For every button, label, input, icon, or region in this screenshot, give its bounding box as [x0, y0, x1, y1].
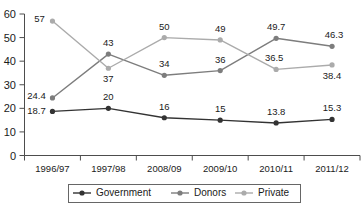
x-axis-ticks: [25, 156, 361, 161]
data-label-government: 15.3: [323, 102, 342, 113]
data-point-private: [218, 37, 223, 42]
series-layer: [50, 18, 335, 125]
data-point-government: [106, 106, 111, 111]
data-point-government: [162, 115, 167, 120]
data-label-donors: 43: [103, 37, 114, 48]
data-point-donors: [50, 95, 55, 100]
series-line-government: [52, 108, 332, 123]
data-label-private: 36.5: [265, 52, 284, 63]
data-point-private: [106, 66, 111, 71]
legend-swatch-marker: [177, 190, 182, 195]
data-point-donors: [329, 44, 334, 49]
y-tick-label: 10: [4, 126, 16, 138]
y-tick-label: 20: [4, 102, 16, 114]
data-label-donors: 34: [159, 58, 170, 69]
x-category-label: 2011/12: [315, 163, 349, 174]
line-chart: 0102030405060 1996/971997/982008/092009/…: [0, 0, 364, 206]
chart-legend[interactable]: GovernmentDonorsPrivate: [69, 185, 301, 203]
y-tick-label: 0: [10, 150, 16, 162]
legend-label: Donors: [194, 187, 226, 198]
series-line-private: [52, 21, 332, 69]
data-point-private: [329, 62, 334, 67]
data-point-private: [50, 18, 55, 23]
x-category-label: 1997/98: [91, 163, 125, 174]
data-point-donors: [162, 73, 167, 78]
data-label-government: 13.8: [267, 106, 286, 117]
y-tick-label: 60: [4, 8, 16, 20]
data-point-private: [274, 67, 279, 72]
data-label-private: 37: [103, 73, 114, 84]
data-point-donors: [218, 68, 223, 73]
legend-label: Government: [96, 187, 151, 198]
data-label-private: 38.4: [323, 70, 342, 81]
x-category-label: 1996/97: [35, 163, 69, 174]
data-point-government: [274, 120, 279, 125]
data-label-layer: 18.720161513.815.324.443343649.746.35737…: [27, 13, 343, 117]
x-category-label: 2010/11: [259, 163, 293, 174]
data-label-private: 50: [159, 21, 170, 32]
data-point-donors: [106, 51, 111, 56]
data-label-government: 18.7: [27, 105, 46, 116]
data-point-government: [329, 117, 334, 122]
legend-swatch-marker: [79, 190, 84, 195]
data-label-private: 49: [215, 23, 226, 34]
data-label-government: 15: [215, 103, 226, 114]
data-label-private: 57: [34, 13, 45, 24]
x-category-label: 2009/10: [203, 163, 237, 174]
legend-swatch-marker: [241, 190, 246, 195]
data-label-government: 20: [103, 91, 114, 102]
data-label-donors: 49.7: [267, 21, 286, 32]
data-label-donors: 24.4: [27, 90, 46, 101]
x-axis-category-labels: 1996/971997/982008/092009/102010/112011/…: [35, 163, 349, 174]
data-point-donors: [274, 36, 279, 41]
x-category-label: 2008/09: [147, 163, 181, 174]
data-point-government: [50, 109, 55, 114]
y-tick-label: 50: [4, 32, 16, 44]
data-label-donors: 46.3: [325, 29, 344, 40]
data-label-government: 16: [159, 101, 170, 112]
y-axis-ticks: 0102030405060: [4, 8, 25, 162]
chart-canvas: 0102030405060 1996/971997/982008/092009/…: [0, 0, 364, 206]
y-tick-label: 40: [4, 55, 16, 67]
y-tick-label: 30: [4, 79, 16, 91]
data-point-government: [218, 118, 223, 123]
data-point-private: [162, 35, 167, 40]
legend-label: Private: [258, 187, 290, 198]
data-label-donors: 36: [215, 54, 226, 65]
